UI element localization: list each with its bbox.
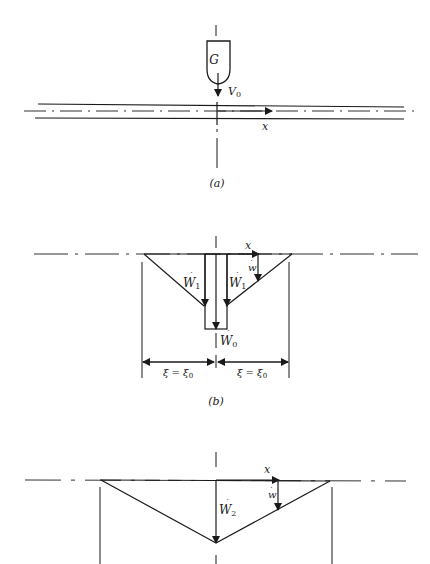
- local-rate-dot: ·: [270, 482, 273, 492]
- plate-top-edge: [38, 104, 404, 107]
- right-rate-label: W1: [229, 276, 246, 291]
- center-rate-dot: ·: [226, 494, 229, 504]
- right-dimension-label: ξ = ξ0: [237, 367, 267, 380]
- right-rate-dot: ·: [236, 267, 239, 277]
- left-rate-dot: ·: [190, 267, 193, 277]
- center-rate-label: W2: [219, 503, 236, 518]
- center-rate-label: W0: [220, 334, 237, 349]
- x-axis-label: x: [264, 463, 271, 476]
- left-rate-label: W1: [183, 276, 200, 291]
- local-rate-dot: ·: [250, 255, 253, 265]
- left-dimension-label: ξ = ξ0: [163, 367, 193, 380]
- figure-b: x W1 · W1 · w · W0 · ξ = ξ0 ξ = ξ0 (b): [34, 236, 418, 408]
- center-rate-dot: ·: [227, 325, 230, 335]
- caption-a: (a): [209, 177, 224, 190]
- diagram-canvas: G V0 x (a): [0, 0, 430, 564]
- figure-a: G V0 x (a): [24, 25, 415, 190]
- plate-bottom-edge: [35, 118, 404, 119]
- x-axis-label: x: [262, 120, 269, 133]
- reference-line-solid: [100, 480, 330, 481]
- caption-b: (b): [208, 395, 224, 408]
- body-label: G: [209, 53, 219, 67]
- profile-left-slope: [101, 480, 216, 543]
- x-axis-label: x: [245, 239, 252, 252]
- figure-c: x w · W2 ·: [25, 452, 406, 564]
- velocity-label: V0: [228, 85, 241, 99]
